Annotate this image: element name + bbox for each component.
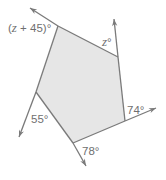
arrowhead-icon bbox=[30, 8, 37, 14]
angle-top-right-label: z° bbox=[101, 34, 112, 49]
polygon-exterior-angles-diagram: (z + 45)°z°74°78°55° bbox=[0, 0, 166, 180]
angle-top-left-label: (z + 45)° bbox=[8, 20, 51, 35]
angle-left-label: 55° bbox=[31, 113, 48, 125]
angle-bottom-label: 78° bbox=[82, 145, 99, 157]
angle-right-label: 74° bbox=[127, 104, 144, 116]
